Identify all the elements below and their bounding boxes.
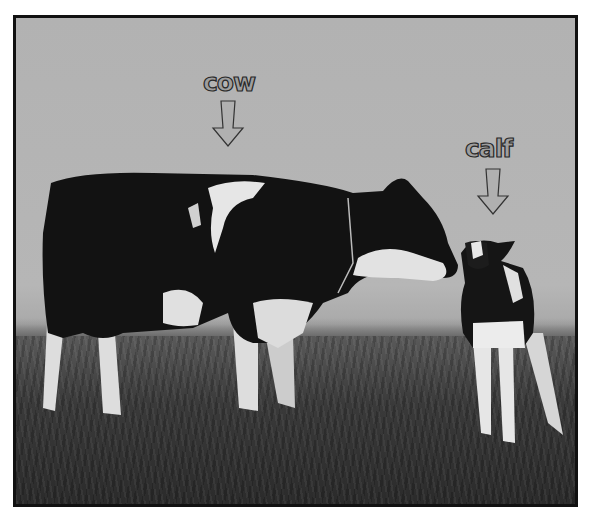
photo-frame: cow calf	[13, 15, 578, 507]
down-arrow-icon	[476, 168, 510, 216]
calf-figure	[16, 18, 578, 507]
down-arrow-icon	[211, 100, 245, 148]
cow-label: cow	[203, 68, 255, 97]
calf-label: calf	[465, 134, 512, 163]
